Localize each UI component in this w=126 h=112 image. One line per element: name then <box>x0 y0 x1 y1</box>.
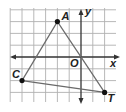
point-T <box>102 90 107 95</box>
point-label-T: T <box>108 92 116 104</box>
point-C <box>19 78 24 83</box>
y-axis-down-arrow-icon <box>79 98 84 104</box>
segment-CA <box>22 22 57 81</box>
x-axis-left-arrow-icon <box>10 55 16 60</box>
point-A <box>55 19 60 24</box>
segment-TC <box>22 81 105 93</box>
labels: x y O <box>70 5 117 69</box>
coordinate-plane: ACT x y O <box>0 0 126 112</box>
point-label-C: C <box>12 68 21 80</box>
point-label-A: A <box>60 10 69 22</box>
coordinate-plane-figure: ACT x y O <box>0 0 126 112</box>
y-axis-label: y <box>84 5 92 17</box>
origin-label: O <box>70 57 79 69</box>
x-axis-label: x <box>109 57 117 69</box>
grid-lines <box>10 8 116 102</box>
